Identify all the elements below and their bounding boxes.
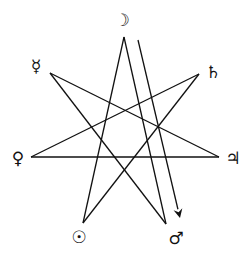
moon-symbol-icon: ☽ [114,12,129,29]
sun-symbol-icon: ☉ [71,229,86,246]
venus-symbol-icon: ♀ [12,150,24,167]
arrowhead-icon [174,208,183,218]
mercury-symbol-icon: ☿ [31,58,41,75]
edge-saturn-sun [83,74,199,223]
edge-saturn-venus [31,74,199,157]
heptagram-edges [31,37,219,224]
saturn-symbol-icon: ♄ [205,64,220,81]
mars-symbol-icon: ♂ [168,230,183,247]
jupiter-symbol-icon: ♃ [225,150,240,167]
edge-moon-sun [83,37,124,223]
heptagram-diagram [0,0,251,255]
